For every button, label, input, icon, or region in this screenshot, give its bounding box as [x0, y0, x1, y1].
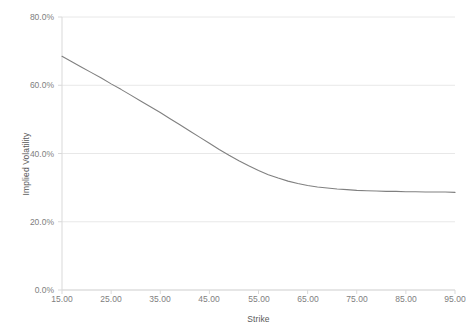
x-axis-title-wrapper: Strike [62, 308, 455, 322]
axis-lines [58, 17, 455, 294]
y-axis-title-wrapper: Implied Volatility [15, 104, 33, 224]
y-tick-label: 60.0% [30, 80, 54, 90]
y-axis-title: Implied Volatility [21, 133, 31, 196]
x-tick-label: 15.00 [51, 294, 72, 304]
x-axis-tick-labels: 15.00 25.00 35.00 45.00 55.00 65.00 75.0… [0, 294, 473, 308]
x-axis-title: Strike [247, 314, 269, 322]
x-tick-label: 45.00 [198, 294, 219, 304]
implied-volatility-chart: 80.0% 60.0% 40.0% 20.0% 0.0% 15.00 25.00… [0, 0, 473, 322]
x-tick-label: 75.00 [346, 294, 367, 304]
x-tick-label: 85.00 [395, 294, 416, 304]
x-tick-label: 65.00 [297, 294, 318, 304]
plot-area [0, 0, 473, 322]
y-tick-label: 40.0% [30, 149, 54, 159]
x-tick-label: 55.00 [248, 294, 269, 304]
y-tick-label: 80.0% [30, 12, 54, 22]
y-tick-label: 20.0% [30, 217, 54, 227]
x-tick-label: 95.00 [444, 294, 465, 304]
gridlines [62, 17, 455, 290]
series-line-implied-volatility [62, 56, 455, 192]
x-tick-label: 35.00 [149, 294, 170, 304]
x-tick-label: 25.00 [100, 294, 121, 304]
